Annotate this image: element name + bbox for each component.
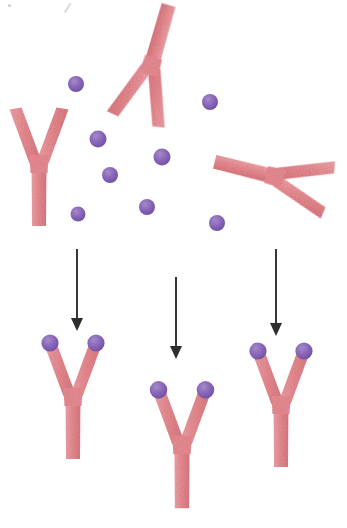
bound-antigen xyxy=(295,342,312,359)
free-antigen-3 xyxy=(90,131,107,148)
diagram-canvas xyxy=(0,0,347,528)
antibody-antigen-diagram xyxy=(0,0,347,528)
bound-antigen xyxy=(150,381,168,399)
free-antigen-5 xyxy=(102,167,118,183)
free-antigen-6 xyxy=(139,199,155,215)
bound-antigen xyxy=(41,334,58,351)
free-antigen-1 xyxy=(68,76,84,92)
bound-antigen xyxy=(87,334,104,351)
bound-antigen xyxy=(249,342,266,359)
free-antigen-8 xyxy=(209,215,225,231)
free-antigen-2 xyxy=(202,94,218,110)
bound-antigen xyxy=(197,381,215,399)
free-antigen-4 xyxy=(154,149,171,166)
free-antigen-7 xyxy=(71,207,86,222)
